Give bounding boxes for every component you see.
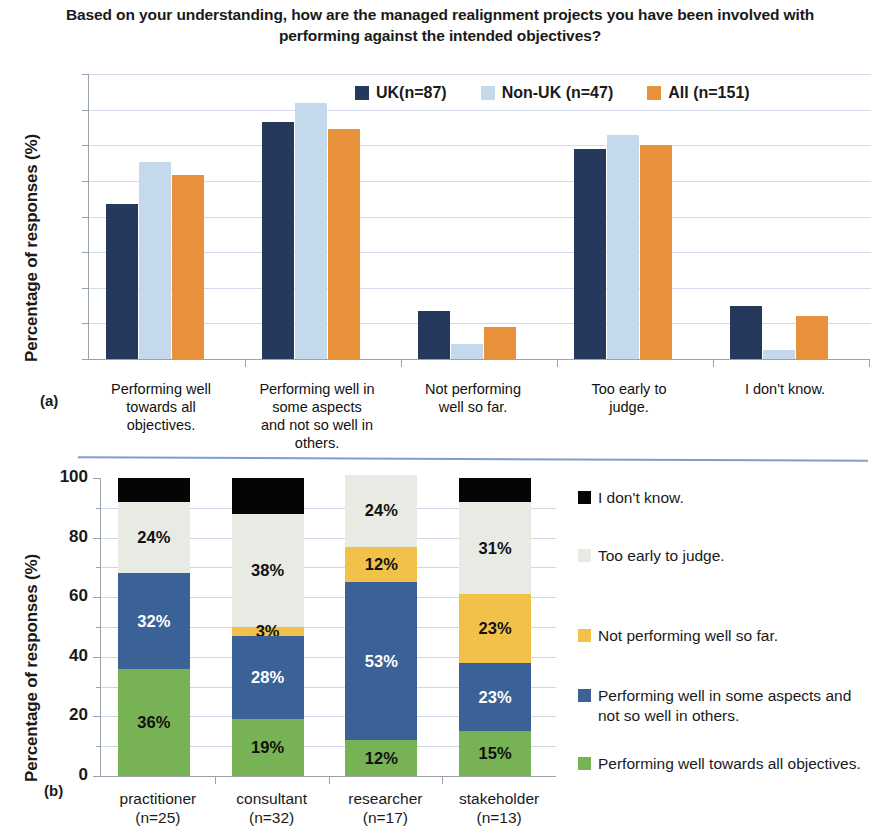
chart-a-x-label-line: objectives. [83, 416, 239, 434]
chart-a-y-axis-title: Percentage of responses (%) [22, 134, 42, 362]
chart-a-x-label-line: I don't know. [707, 380, 863, 398]
chart-a-bar [640, 145, 672, 359]
chart-a-plot-area: 4035302520151050Performing welltowards a… [88, 74, 869, 360]
chart-b-y-tick-label: 0 [40, 765, 88, 785]
chart-b-y-tick [93, 478, 101, 479]
chart-b-stacked-bar: Percentage of responses (%) (b) 10080604… [0, 470, 879, 834]
legend-item-non-uk: Non-UK (n=47) [481, 84, 614, 102]
legend-label-non-uk: Non-UK (n=47) [502, 84, 614, 102]
chart-a-bar [106, 204, 138, 359]
chart-a-bar [763, 350, 795, 359]
chart-b-stack-segment: 32% [118, 573, 190, 668]
chart-a-gridline [89, 145, 871, 146]
chart-a-bar [262, 122, 294, 359]
chart-b-stack-segment: 12% [345, 547, 417, 583]
chart-b-x-label-line: (n=13) [430, 809, 568, 828]
chart-b-stack-segment: 3% [232, 627, 304, 636]
chart-b-x-label: stakeholder(n=13) [430, 790, 568, 828]
chart-b-legend-swatch [578, 689, 591, 702]
chart-a-x-label-line: Performing well in [239, 380, 395, 398]
chart-b-stack-segment: 12% [345, 740, 417, 776]
chart-b-legend-label: Too early to judge. [598, 546, 725, 566]
chart-b-stack-segment: 23% [459, 663, 531, 732]
chart-a-y-tick [82, 181, 89, 182]
chart-a-bar [139, 162, 171, 359]
chart-b-x-label-line: stakeholder [430, 790, 568, 809]
chart-b-y-tick-label: 60 [40, 586, 88, 606]
chart-b-stack-segment: 15% [459, 731, 531, 776]
chart-b-stacked-bar: 31%23%23%15% [459, 478, 531, 776]
chart-a-y-tick [82, 323, 89, 324]
chart-a-y-tick [82, 110, 89, 111]
chart-a-y-tick [82, 145, 89, 146]
chart-a-gridline [89, 181, 871, 182]
chart-a-x-label: Not performingwell so far. [395, 380, 551, 416]
chart-a-x-tick [869, 359, 870, 367]
panel-divider [78, 456, 868, 461]
chart-a-bar [451, 344, 483, 359]
chart-b-stack-segment: 36% [118, 669, 190, 776]
chart-a-x-label-line: some aspects [239, 398, 395, 416]
chart-a-x-label-line: Not performing [395, 380, 551, 398]
panel-a-letter: (a) [40, 392, 58, 409]
chart-b-stack-segment: 28% [232, 636, 304, 719]
chart-b-y-tick [93, 716, 101, 717]
chart-a-bar [418, 311, 450, 359]
chart-b-x-tick [442, 776, 443, 784]
chart-a-x-label: I don't know. [707, 380, 863, 398]
chart-a-gridline [89, 288, 871, 289]
legend-item-all: All (n=151) [647, 84, 749, 102]
chart-a-x-label-line: well so far. [395, 398, 551, 416]
chart-b-y-tick-minor [96, 687, 101, 688]
legend-swatch-non-uk [481, 86, 495, 100]
chart-b-legend-swatch [578, 549, 591, 562]
legend-swatch-all [647, 86, 661, 100]
chart-b-x-tick [215, 776, 216, 784]
legend-label-uk: UK(n=87) [376, 84, 447, 102]
chart-a-x-label: Performing well insome aspectsand not so… [239, 380, 395, 453]
chart-b-legend-item: Too early to judge. [578, 546, 725, 566]
chart-b-stack-segment: 23% [459, 594, 531, 663]
chart-a-bar [484, 327, 516, 359]
chart-a-x-label-line: and not so well in [239, 416, 395, 434]
chart-b-y-tick-label: 40 [40, 646, 88, 666]
chart-b-stack-segment: 53% [345, 582, 417, 740]
chart-b-y-tick-label: 100 [40, 467, 88, 487]
legend-swatch-uk [355, 86, 369, 100]
chart-a-y-tick [82, 252, 89, 253]
chart-b-legend-item: Not performing well so far. [578, 626, 778, 646]
chart-a-x-label: Too early tojudge. [551, 380, 707, 416]
chart-b-legend-swatch [578, 629, 591, 642]
chart-b-y-tick [93, 776, 101, 777]
chart-b-stacked-bar: 38%3%28%19% [232, 478, 304, 776]
chart-b-legend-label: Performing well in some aspects and not … [598, 686, 876, 725]
chart-a-y-tick [82, 359, 89, 360]
chart-a-grouped-bar: Percentage of responses (%) (a) 40353025… [0, 62, 879, 452]
chart-a-bar [607, 135, 639, 359]
chart-b-stack-segment: 24% [345, 475, 417, 547]
chart-a-gridline [89, 74, 871, 75]
chart-b-y-tick-label: 80 [40, 527, 88, 547]
chart-b-stack-segment: 24% [118, 502, 190, 574]
chart-b-stack-segment [118, 478, 190, 502]
chart-a-x-label-line: towards all [83, 398, 239, 416]
chart-b-legend-label: Not performing well so far. [598, 626, 778, 646]
chart-b-legend-item: Performing well towards all objectives. [578, 754, 861, 774]
chart-b-y-tick [93, 538, 101, 539]
chart-b-stack-segment: 19% [232, 719, 304, 776]
chart-a-gridline [89, 217, 871, 218]
chart-a-x-tick [245, 359, 246, 367]
chart-b-legend-label: I don't know. [598, 488, 684, 508]
chart-a-legend: UK(n=87) Non-UK (n=47) All (n=151) [355, 84, 750, 102]
chart-b-legend-label: Performing well towards all objectives. [598, 754, 861, 774]
chart-b-y-tick-label: 20 [40, 705, 88, 725]
chart-b-legend-swatch [578, 757, 591, 770]
chart-b-y-axis-title: Percentage of responses (%) [22, 554, 42, 782]
chart-a-x-label-line: judge. [551, 398, 707, 416]
chart-a-gridline [89, 110, 871, 111]
chart-b-legend-item: Performing well in some aspects and not … [578, 686, 876, 725]
chart-a-x-tick [401, 359, 402, 367]
chart-b-stack-segment [232, 478, 304, 514]
chart-a-bar [730, 306, 762, 359]
chart-b-plot-area: 10080604020024%32%36%practitioner(n=25)3… [100, 478, 556, 777]
